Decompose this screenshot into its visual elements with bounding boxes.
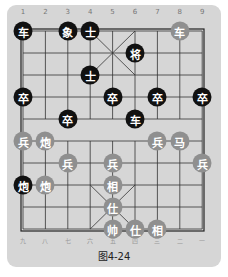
red-piece[interactable]: 兵 [58,154,77,173]
black-piece[interactable]: 炮 [14,176,33,195]
red-piece[interactable]: 相 [103,176,122,195]
red-piece[interactable]: 兵 [103,154,122,173]
black-piece[interactable]: 士 [81,22,100,41]
column-label-top: 1 [17,8,29,16]
column-label-top: 6 [129,8,141,16]
red-piece[interactable]: 车 [170,22,189,41]
red-piece[interactable]: 兵 [14,132,33,151]
black-piece[interactable]: 将 [126,44,145,63]
column-label-top: 9 [196,8,208,16]
red-piece[interactable]: 仕 [126,220,145,239]
black-piece[interactable]: 象 [58,22,77,41]
column-label-bottom: 六 [84,236,96,245]
column-label-bottom: 一 [196,236,208,245]
column-label-bottom: 八 [39,236,51,245]
black-piece[interactable]: 卒 [193,88,212,107]
red-piece[interactable]: 帅 [103,220,122,239]
red-piece[interactable]: 仕 [103,198,122,217]
black-piece[interactable]: 卒 [148,88,167,107]
column-label-top: 3 [62,8,74,16]
column-label-bottom: 九 [17,236,29,245]
black-piece[interactable]: 车 [126,110,145,129]
column-label-top: 2 [39,8,51,16]
red-piece[interactable]: 炮 [36,132,55,151]
figure-caption: 图4-24 [0,248,228,263]
red-piece[interactable]: 马 [170,132,189,151]
black-piece[interactable]: 士 [81,66,100,85]
red-piece[interactable]: 炮 [36,176,55,195]
column-label-top: 4 [84,8,96,16]
column-label-top: 8 [174,8,186,16]
red-piece[interactable]: 兵 [148,132,167,151]
black-piece[interactable]: 卒 [14,88,33,107]
red-piece[interactable]: 兵 [193,154,212,173]
red-piece[interactable]: 相 [148,220,167,239]
black-piece[interactable]: 车 [14,22,33,41]
column-label-bottom: 七 [62,236,74,245]
column-label-bottom: 二 [174,236,186,245]
black-piece[interactable]: 卒 [58,110,77,129]
black-piece[interactable]: 卒 [103,88,122,107]
column-label-top: 7 [151,8,163,16]
column-label-top: 5 [107,8,119,16]
